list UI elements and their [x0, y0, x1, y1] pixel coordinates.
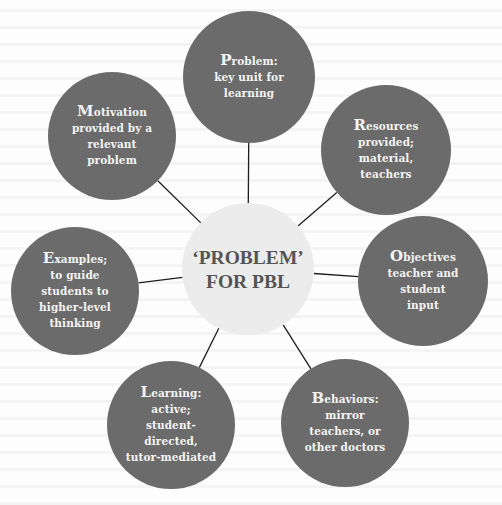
node-label-line: thinking [49, 317, 101, 329]
node-label-line: students to [41, 285, 108, 297]
hub-node: ‘PROBLEM’FOR PBL [182, 203, 314, 335]
node-label-line: student- [146, 419, 196, 431]
node-label-line: relevant [87, 138, 136, 150]
node-behaviors: Behaviors:mirrorteachers, orother doctor… [281, 359, 409, 487]
node-label-line: mirror [325, 409, 365, 421]
node-label-line: to guide [50, 269, 100, 281]
hub-label-line: ‘PROBLEM’ [192, 247, 304, 268]
node-label-line: teacher and [387, 267, 459, 279]
node-label-line: teachers [360, 168, 411, 180]
node-circle-objectives [358, 216, 488, 346]
node-learning: Learning:active;student-directed,tutor-m… [107, 361, 235, 489]
node-label-line: directed, [144, 435, 197, 447]
spoke-line-motivation [158, 181, 201, 223]
spoke-line-behaviors [283, 325, 311, 369]
node-label-line: input [407, 299, 439, 311]
node-label-line: other doctors [305, 441, 386, 453]
node-label-line: teachers, or [309, 425, 381, 437]
node-label-line: material, [359, 152, 413, 164]
spoke-line-examples [139, 277, 183, 283]
node-label-line: provided by a [72, 122, 152, 134]
node-label-line: tutor-mediated [126, 451, 217, 463]
node-label-line: learning [224, 87, 275, 99]
hub-circle [182, 203, 314, 335]
node-label-line: student [400, 283, 446, 295]
spoke-line-resources [298, 192, 337, 226]
pbl-concept-diagram: ‘PROBLEM’FOR PBL Problem:key unit forlea… [0, 0, 502, 505]
node-label-line: key unit for [214, 71, 284, 83]
node-label-line: active; [151, 403, 190, 416]
hub-label-line: FOR PBL [206, 271, 290, 292]
spoke-line-objectives [314, 274, 358, 277]
node-label-line: problem [87, 154, 137, 166]
node-motivation: Motivationprovided by arelevantproblem [48, 72, 176, 200]
node-resources: Resourcesprovided;material,teachers [321, 85, 451, 215]
node-circle-behaviors [281, 359, 409, 487]
node-label-line: higher-level [39, 301, 111, 313]
spoke-line-learning [199, 328, 219, 367]
node-examples: Examples;to guidestudents tohigher-level… [11, 227, 139, 355]
node-label-line: provided; [358, 136, 414, 149]
node-circle-motivation [48, 72, 176, 200]
node-problem: Problem:key unit forlearning [183, 11, 315, 143]
node-objectives: Objectivesteacher andstudentinput [358, 216, 488, 346]
node-circle-resources [321, 85, 451, 215]
